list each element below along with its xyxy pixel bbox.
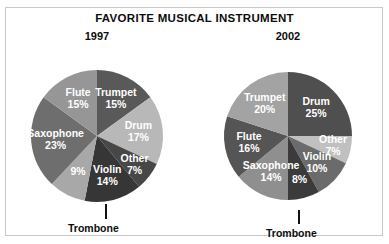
slice-name: Drum — [302, 95, 329, 107]
trombone-callout-label-2002: Trombone — [266, 227, 317, 239]
slice-value: 14% — [261, 171, 283, 183]
pie-svg-1997: Trumpet15%Drum17%Other7%Violin14%9%Saxop… — [20, 48, 175, 208]
chart-figure: FAVORITE MUSICAL INSTRUMENT 1997 2002 Tr… — [0, 0, 389, 244]
slice-value: 17% — [128, 131, 150, 143]
pie-slice-label: Drum25% — [302, 95, 329, 119]
pie-slice-label: Drum17% — [125, 119, 152, 143]
slice-name: Flute — [66, 86, 91, 98]
slice-name: Flute — [236, 130, 261, 142]
pie-chart-2002: Drum25%Other7%Violin10%8%Saxophone14%Flu… — [212, 48, 367, 208]
slice-value: 15% — [105, 98, 127, 110]
pie-slice-label: 8% — [292, 173, 308, 185]
slice-name: Saxophone — [243, 159, 300, 171]
pie-slice-label: Flute15% — [66, 86, 91, 110]
slice-name: Other — [319, 133, 347, 145]
pie-year-label-1997: 1997 — [37, 30, 157, 42]
slice-name: Drum — [125, 119, 152, 131]
slice-value: 16% — [238, 142, 260, 154]
pie-slice-label: 9% — [71, 165, 87, 177]
slice-value: 23% — [45, 139, 67, 151]
slice-name: Trumpet — [244, 91, 286, 103]
slice-value: 10% — [306, 162, 328, 174]
slice-value: 20% — [254, 103, 276, 115]
slice-value: 8% — [292, 173, 308, 185]
slice-value: 9% — [71, 165, 87, 177]
pie-chart-1997: Trumpet15%Drum17%Other7%Violin14%9%Saxop… — [20, 48, 175, 208]
slice-name: Violin — [93, 163, 121, 175]
slice-value: 14% — [97, 175, 119, 187]
slice-name: Saxophone — [27, 127, 84, 139]
slice-value: 25% — [306, 107, 328, 119]
pie-slice-label: Flute16% — [236, 130, 261, 154]
trombone-leader-line-2002 — [298, 210, 300, 224]
pie-slice-label: Violin10% — [303, 150, 331, 174]
slice-value: 15% — [68, 98, 90, 110]
pie-slice-label: Violin14% — [93, 163, 121, 187]
pie-svg-2002: Drum25%Other7%Violin10%8%Saxophone14%Flu… — [212, 48, 367, 208]
slice-name: Other — [120, 152, 148, 164]
slice-value: 7% — [127, 164, 143, 176]
page-title: FAVORITE MUSICAL INSTRUMENT — [0, 12, 389, 24]
pie-year-label-2002: 2002 — [228, 30, 348, 42]
slice-name: Violin — [303, 150, 331, 162]
trombone-callout-label-1997: Trombone — [68, 222, 119, 234]
trombone-leader-line-1997 — [105, 204, 107, 219]
slice-name: Trumpet — [95, 86, 137, 98]
